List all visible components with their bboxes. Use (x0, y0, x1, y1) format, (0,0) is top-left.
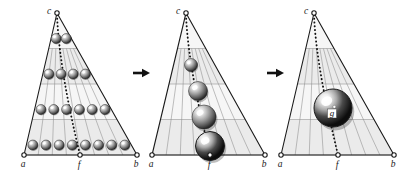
vertex-f-marker (78, 153, 82, 157)
vertex-b-label: b (134, 159, 139, 169)
vertex-a-label: a (21, 159, 26, 169)
sphere-body (28, 140, 38, 150)
sphere-body (51, 34, 61, 44)
sphere-body (192, 105, 216, 129)
arrow-1 (133, 69, 150, 77)
vertex-c-marker (312, 11, 316, 15)
arrow-head (142, 69, 150, 77)
sphere-label: g (330, 108, 335, 118)
sphere-body (62, 105, 72, 115)
figure-container: abfcabfcgabfc (0, 0, 416, 174)
sphere-body (49, 105, 59, 115)
vertex-c-label: c (304, 6, 309, 16)
vertex-c-marker (184, 11, 188, 15)
sphere-body (189, 82, 208, 101)
vertex-f-label: f (78, 160, 82, 170)
vertex-c-label: c (47, 6, 52, 16)
sphere-body (107, 140, 117, 150)
arrow-head (276, 69, 284, 77)
sphere-body (80, 69, 90, 79)
vertex-b-label: b (262, 159, 267, 169)
vertex-f-marker (208, 153, 212, 157)
sphere-body (56, 69, 66, 79)
vertex-b-label: b (391, 159, 396, 169)
panel-3: gabfc (278, 6, 397, 170)
sphere-body (94, 140, 104, 150)
sphere-body (120, 140, 130, 150)
vertex-a-label: a (278, 159, 283, 169)
vertex-b-marker (392, 153, 396, 157)
vertex-c-marker (55, 11, 59, 15)
vertex-a-label: a (149, 159, 154, 169)
vertex-a-marker (22, 153, 26, 157)
arrow-2 (267, 69, 284, 77)
vertex-b-marker (135, 153, 139, 157)
vertex-b-marker (263, 153, 267, 157)
sphere-body (67, 140, 77, 150)
sphere-body (87, 105, 97, 115)
sphere-center-dot (333, 105, 336, 108)
sphere-body (80, 140, 90, 150)
sphere-body (74, 105, 84, 115)
sphere-body (44, 69, 54, 79)
panel-2: abfc (149, 6, 268, 170)
panel-1: abfc (21, 6, 140, 170)
sphere-body (185, 59, 198, 72)
sphere-body (54, 140, 64, 150)
grid-band (298, 49, 355, 85)
vertex-a-marker (150, 153, 154, 157)
sphere-body (100, 105, 110, 115)
vertex-f-marker (336, 153, 340, 157)
sphere-body (61, 34, 71, 44)
panels-layer: abfcabfcgabfc (21, 6, 397, 170)
sphere-body (41, 140, 51, 150)
sphere-body (36, 105, 46, 115)
sphere-body (68, 69, 78, 79)
triangle-diagram-svg: abfcabfcgabfc (0, 0, 416, 174)
vertex-c-label: c (176, 6, 181, 16)
vertex-f-label: f (336, 160, 340, 170)
vertex-a-marker (279, 153, 283, 157)
